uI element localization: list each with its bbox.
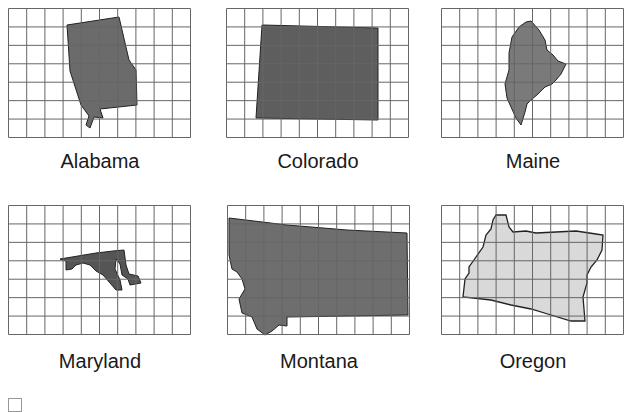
panel-maine — [441, 8, 625, 139]
maine-grid-map — [441, 8, 625, 139]
label-maine: Maine — [433, 150, 628, 173]
panel-montana — [227, 205, 411, 336]
label-montana: Montana — [219, 350, 419, 373]
oregon-grid-map — [441, 205, 625, 336]
montana-grid-map — [227, 205, 411, 336]
label-maryland: Maryland — [0, 350, 200, 373]
label-colorado: Colorado — [218, 150, 418, 173]
alabama-grid-map — [8, 8, 192, 139]
maryland-grid-map — [8, 205, 192, 336]
answer-checkbox[interactable] — [8, 398, 22, 412]
label-oregon: Oregon — [433, 350, 628, 373]
panel-oregon — [441, 205, 625, 336]
panel-maryland — [8, 205, 192, 336]
panel-alabama — [8, 8, 192, 139]
label-alabama: Alabama — [0, 150, 200, 173]
panel-colorado — [226, 8, 410, 139]
colorado-grid-map — [226, 8, 410, 139]
